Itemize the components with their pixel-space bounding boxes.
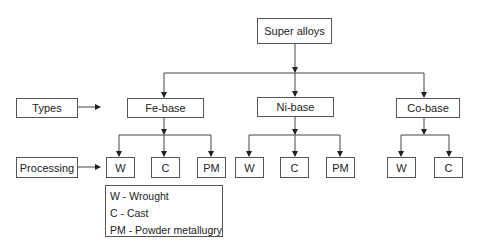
type-node-co-base: Co-base xyxy=(396,98,460,118)
process-label: C xyxy=(445,162,453,174)
process-node-ni-pm: PM xyxy=(326,157,355,178)
process-label: W xyxy=(396,162,406,174)
process-label: C xyxy=(162,162,170,174)
type-node-ni-base: Ni-base xyxy=(257,97,334,117)
process-label: W xyxy=(244,162,254,174)
process-label: W xyxy=(115,162,125,174)
legend-box: W - Wrought C - Cast PM - Powder metallu… xyxy=(105,185,223,237)
row-label-processing: Processing xyxy=(16,157,78,178)
root-label: Super alloys xyxy=(264,25,325,37)
legend-item-cast: C - Cast xyxy=(110,205,218,222)
process-label: C xyxy=(291,162,299,174)
root-node-super-alloys: Super alloys xyxy=(257,18,332,44)
connector-lines xyxy=(0,0,477,251)
type-label: Co-base xyxy=(407,102,449,114)
type-node-fe-base: Fe-base xyxy=(127,98,204,118)
process-node-fe-w: W xyxy=(106,157,135,178)
type-label: Ni-base xyxy=(277,101,315,113)
process-node-ni-c: C xyxy=(280,157,309,178)
processing-label: Processing xyxy=(20,162,74,174)
legend-item-powder-metallurgy: PM - Powder metallugry xyxy=(110,222,218,239)
process-node-fe-pm: PM xyxy=(197,157,226,178)
legend-item-wrought: W - Wrought xyxy=(110,188,218,205)
row-label-types: Types xyxy=(16,98,78,118)
types-label: Types xyxy=(32,102,61,114)
process-node-co-w: W xyxy=(387,157,416,178)
type-label: Fe-base xyxy=(145,102,185,114)
process-node-fe-c: C xyxy=(151,157,180,178)
process-label: PM xyxy=(203,162,220,174)
process-label: PM xyxy=(332,162,349,174)
process-node-co-c: C xyxy=(434,157,463,178)
process-node-ni-w: W xyxy=(235,157,264,178)
